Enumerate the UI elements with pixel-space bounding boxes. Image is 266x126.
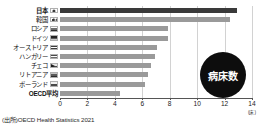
category-text: ポーランド bbox=[19, 81, 48, 88]
bar-リトアニア bbox=[60, 72, 148, 77]
category-label-オーストリア: オーストリア bbox=[0, 43, 58, 52]
bar-row bbox=[60, 6, 252, 15]
bar-row bbox=[60, 24, 252, 33]
x-axis-tick-10: 10 bbox=[187, 100, 207, 107]
category-text: ロシア bbox=[31, 25, 48, 32]
x-axis-tick-0: 0 bbox=[50, 100, 70, 107]
bar-オーストリア bbox=[60, 45, 157, 50]
gridline bbox=[252, 6, 253, 98]
beds-badge-label: 病床数 bbox=[208, 68, 239, 83]
flag-icon-ハンガリー bbox=[50, 54, 58, 59]
bar-ポーランド bbox=[60, 82, 145, 87]
x-axis-tick-6: 6 bbox=[132, 100, 152, 107]
flag-icon-ロシア bbox=[50, 26, 58, 31]
x-axis-tick-12: 12 bbox=[215, 100, 235, 107]
bar-ドイツ bbox=[60, 36, 168, 41]
category-label-韓国: 韓国 bbox=[0, 15, 58, 24]
category-label-ドイツ: ドイツ bbox=[0, 34, 58, 43]
category-label-ハンガリー: ハンガリー bbox=[0, 52, 58, 61]
category-label-リトアニア: リトアニア bbox=[0, 70, 58, 79]
x-axis-unit-label: (床) bbox=[240, 108, 264, 115]
bar-row bbox=[60, 43, 252, 52]
bar-チェコ bbox=[60, 63, 151, 68]
category-text: 日本 bbox=[36, 7, 48, 14]
category-text: チェコ bbox=[31, 62, 48, 69]
category-text: 韓国 bbox=[36, 16, 48, 23]
x-axis-tick-14: 14 bbox=[242, 100, 262, 107]
category-text: ハンガリー bbox=[19, 53, 48, 60]
bar-OECD平均 bbox=[60, 91, 120, 96]
hospital-beds-bar-chart: 日本韓国ロシアドイツオーストリアハンガリーチェコリトアニアポーランドOECD平均… bbox=[0, 0, 266, 126]
bar-ロシア bbox=[60, 26, 168, 31]
bar-ハンガリー bbox=[60, 54, 155, 59]
bar-row bbox=[60, 34, 252, 43]
flag-icon-チェコ bbox=[50, 63, 58, 68]
category-text: オーストリア bbox=[13, 44, 48, 51]
category-label-ロシア: ロシア bbox=[0, 24, 58, 33]
category-label-OECD平均: OECD平均 bbox=[0, 89, 58, 98]
x-axis-tick-2: 2 bbox=[77, 100, 97, 107]
beds-badge: 病床数 bbox=[200, 52, 246, 98]
category-text: リトアニア bbox=[19, 71, 48, 78]
x-axis-tick-8: 8 bbox=[160, 100, 180, 107]
category-label-日本: 日本 bbox=[0, 6, 58, 15]
bar-row bbox=[60, 15, 252, 24]
flag-icon-リトアニア bbox=[50, 72, 58, 77]
category-label-ポーランド: ポーランド bbox=[0, 80, 58, 89]
x-axis-tick-4: 4 bbox=[105, 100, 125, 107]
x-axis-line bbox=[60, 98, 252, 99]
flag-icon-ドイツ bbox=[50, 35, 58, 40]
category-label-チェコ: チェコ bbox=[0, 61, 58, 70]
category-text: OECD平均 bbox=[29, 90, 58, 97]
bar-韓国 bbox=[60, 17, 230, 22]
flag-icon-韓国 bbox=[50, 17, 58, 22]
bar-日本 bbox=[60, 8, 237, 13]
source-note: (出所)OECD Health Statistics 2021 bbox=[2, 115, 94, 124]
flag-icon-ポーランド bbox=[50, 81, 58, 86]
category-text: ドイツ bbox=[31, 35, 48, 42]
flag-icon-オーストリア bbox=[50, 45, 58, 50]
flag-icon-日本 bbox=[50, 8, 58, 13]
